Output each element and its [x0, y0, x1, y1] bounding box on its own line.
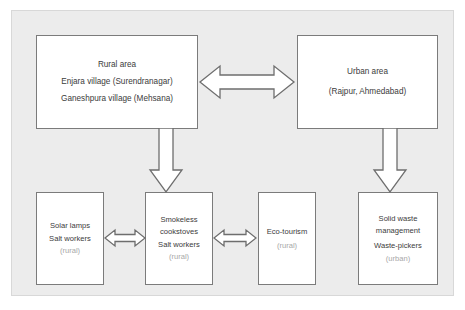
- node-solar-lamps-line1: Solar lamps: [50, 221, 90, 231]
- node-urban-area-line2: (Rajpur, Ahmedabad): [329, 87, 406, 98]
- node-rural-area-title: Rural area: [98, 60, 136, 71]
- node-eco-tourism-line2: (rural): [277, 241, 297, 251]
- node-solid-waste-management-line4: (urban): [386, 254, 410, 264]
- node-eco-tourism-line1: Eco-tourism: [267, 227, 308, 237]
- diagram-canvas: Rural area Enjara village (Surendranagar…: [0, 0, 465, 310]
- node-solid-waste-management[interactable]: Solid waste management Waste-pickers (ur…: [358, 192, 438, 285]
- node-solid-waste-management-line2: management: [376, 226, 420, 236]
- arrow-solar-cookstoves-bidirectional: [104, 228, 146, 248]
- arrow-urban-to-waste-down: [372, 128, 408, 194]
- node-urban-area-title: Urban area: [347, 67, 388, 78]
- node-eco-tourism[interactable]: Eco-tourism (rural): [258, 192, 316, 285]
- arrow-rural-urban-bidirectional: [198, 62, 296, 102]
- node-smokeless-cookstoves-line1: Smokeless: [160, 215, 197, 225]
- node-smokeless-cookstoves-line4: (rural): [169, 252, 189, 262]
- node-solar-lamps-line3: (rural): [60, 246, 80, 256]
- node-solid-waste-management-line3: Waste-pickers: [374, 241, 422, 251]
- node-smokeless-cookstoves-line2: cookstoves: [160, 227, 198, 237]
- node-solid-waste-management-line1: Solid waste: [379, 214, 418, 224]
- node-smokeless-cookstoves-line3: Salt workers: [158, 240, 200, 250]
- node-smokeless-cookstoves[interactable]: Smokeless cookstoves Salt workers (rural…: [145, 192, 213, 285]
- node-solar-lamps[interactable]: Solar lamps Salt workers (rural): [36, 192, 104, 285]
- node-rural-area-line2: Enjara village (Surendranagar): [61, 77, 173, 88]
- node-urban-area[interactable]: Urban area (Rajpur, Ahmedabad): [297, 35, 438, 129]
- arrow-rural-to-cookstoves-down: [148, 128, 184, 194]
- node-rural-area[interactable]: Rural area Enjara village (Surendranagar…: [36, 35, 198, 129]
- arrow-cookstoves-ecotourism-bidirectional: [213, 228, 257, 248]
- node-rural-area-line3: Ganeshpura village (Mehsana): [61, 94, 173, 105]
- node-solar-lamps-line2: Salt workers: [49, 234, 91, 244]
